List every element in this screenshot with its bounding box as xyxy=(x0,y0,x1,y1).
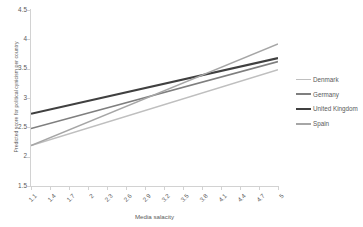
x-tick-mark xyxy=(240,187,241,190)
y-tick-label: 2 xyxy=(13,153,27,159)
legend-line-swatch xyxy=(296,79,311,81)
legend-item-spain[interactable]: Spain xyxy=(296,116,363,131)
x-tick-mark xyxy=(50,187,51,190)
chart-figure: Predicted score for political cynicism p… xyxy=(0,0,363,227)
series-line-spain xyxy=(31,44,278,145)
chart-legend: DenmarkGermanyUnited KingdomSpain xyxy=(296,72,363,131)
series-line-united-kingdom xyxy=(31,58,278,114)
x-tick-label: 4.7 xyxy=(250,192,266,208)
x-tick-mark xyxy=(88,187,89,190)
legend-item-united-kingdom[interactable]: United Kingdom xyxy=(296,102,363,117)
x-tick-mark xyxy=(164,187,165,190)
y-tick-mark xyxy=(27,127,30,128)
x-tick-label: 2 xyxy=(79,192,95,208)
y-tick-mark xyxy=(27,157,30,158)
y-tick-label: 3.5 xyxy=(13,65,27,71)
legend-item-label: Germany xyxy=(313,91,339,98)
x-axis-title: Media salacity xyxy=(31,213,278,220)
y-tick-mark xyxy=(27,186,30,187)
plot-area xyxy=(31,10,278,186)
y-tick-label: 1.5 xyxy=(13,183,27,189)
y-tick-label: 4 xyxy=(13,36,27,42)
y-tick-mark xyxy=(27,10,30,11)
x-tick-label: 1.7 xyxy=(60,192,76,208)
legend-item-label: Denmark xyxy=(313,76,339,83)
y-tick-label: 4.5 xyxy=(13,7,27,13)
x-tick-mark xyxy=(69,187,70,190)
x-tick-mark xyxy=(202,187,203,190)
x-tick-mark xyxy=(126,187,127,190)
series-line-denmark xyxy=(31,70,278,146)
x-tick-mark xyxy=(278,187,279,190)
legend-item-germany[interactable]: Germany xyxy=(296,87,363,102)
x-tick-mark xyxy=(221,187,222,190)
legend-line-swatch xyxy=(296,108,311,110)
x-tick-label: 4.4 xyxy=(231,192,247,208)
y-tick-label: 2.5 xyxy=(13,124,27,130)
x-tick-label: 1.4 xyxy=(41,192,57,208)
legend-item-label: United Kingdom xyxy=(313,105,358,112)
legend-item-label: Spain xyxy=(313,120,329,127)
x-tick-mark xyxy=(183,187,184,190)
x-tick-label: 2.6 xyxy=(117,192,133,208)
x-tick-mark xyxy=(107,187,108,190)
x-tick-label: 3.5 xyxy=(174,192,190,208)
x-tick-mark xyxy=(145,187,146,190)
y-tick-mark xyxy=(27,69,30,70)
x-tick-label: 5 xyxy=(269,192,285,208)
x-tick-label: 3.8 xyxy=(193,192,209,208)
x-tick-label: 2.9 xyxy=(136,192,152,208)
x-tick-mark xyxy=(31,187,32,190)
series-lines xyxy=(31,10,278,186)
x-axis-line xyxy=(30,186,279,187)
y-axis-tick-labels: 1.522.533.544.5 xyxy=(13,0,27,227)
x-tick-label: 3.2 xyxy=(155,192,171,208)
y-tick-mark xyxy=(27,98,30,99)
y-tick-label: 3 xyxy=(13,95,27,101)
x-tick-label: 4.1 xyxy=(212,192,228,208)
x-tick-mark xyxy=(259,187,260,190)
y-tick-mark xyxy=(27,39,30,40)
x-tick-label: 2.3 xyxy=(98,192,114,208)
legend-line-swatch xyxy=(296,123,311,125)
legend-line-swatch xyxy=(296,93,311,95)
legend-item-denmark[interactable]: Denmark xyxy=(296,72,363,87)
